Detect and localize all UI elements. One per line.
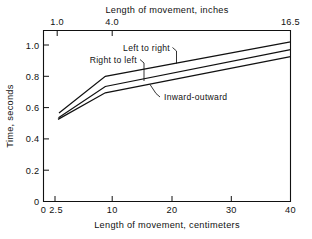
bottom-tick-label-0: 0 bbox=[41, 205, 46, 215]
leader-inward-outward bbox=[150, 85, 160, 98]
top-tick-label-0: 1.0 bbox=[50, 17, 64, 27]
left-axis-title: Time, seconds bbox=[5, 84, 15, 147]
plot-frame bbox=[44, 31, 291, 202]
series-line-inward-outward bbox=[58, 57, 291, 120]
left-tick-label-1: 0.8 bbox=[26, 72, 40, 82]
bottom-tick-label-3: 20 bbox=[167, 205, 178, 215]
bottom-tick-label-4: 30 bbox=[226, 205, 237, 215]
top-tick-label-2: 16.5 bbox=[281, 17, 300, 27]
line-chart: 1.0 4.0 16.5 Length of movement, inches … bbox=[0, 0, 312, 239]
annotation-inward-outward: Inward-outward bbox=[164, 92, 227, 102]
chart-figure: 1.0 4.0 16.5 Length of movement, inches … bbox=[0, 0, 312, 239]
left-axis-ticks bbox=[44, 45, 50, 202]
left-tick-label-5: 0 bbox=[34, 197, 39, 207]
left-tick-label-3: 0.4 bbox=[26, 134, 40, 144]
bottom-tick-label-5: 40 bbox=[285, 205, 296, 215]
top-axis-title: Length of movement, inches bbox=[105, 5, 228, 15]
bottom-tick-label-1: 2.5 bbox=[49, 205, 63, 215]
annotation-right-to-left: Right to left bbox=[90, 55, 138, 65]
bottom-axis-ticks bbox=[44, 196, 291, 202]
top-axis-ticks bbox=[57, 31, 290, 37]
left-tick-label-0: 1.0 bbox=[26, 41, 40, 51]
bottom-tick-label-2: 10 bbox=[107, 205, 118, 215]
bottom-axis-title: Length of movement, centimeters bbox=[94, 220, 240, 230]
top-tick-label-1: 4.0 bbox=[105, 17, 119, 27]
series-line-left-to-right bbox=[59, 42, 291, 113]
left-tick-label-2: 0.6 bbox=[26, 103, 40, 113]
left-tick-label-4: 0.2 bbox=[26, 166, 40, 176]
annotation-left-to-right: Left to right bbox=[123, 43, 170, 53]
leader-left-to-right bbox=[173, 48, 177, 64]
